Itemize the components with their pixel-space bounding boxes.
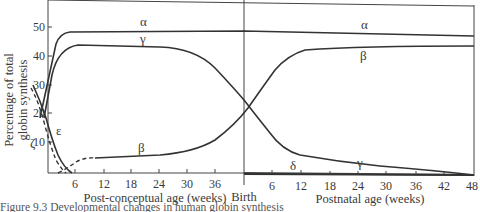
pre-tick-24: 24 [153, 177, 165, 191]
series-gamma [44, 45, 474, 175]
pre-tick-12: 12 [98, 177, 110, 191]
x-axis-postnatal-labels: 6 12 18 24 30 36 42 48 [269, 179, 478, 193]
label-gamma-right: γ [356, 155, 363, 170]
y-axis-title-line2: globin synthesis [16, 59, 30, 140]
globin-synthesis-chart: 50 40 30 20 10 Percentage of total globi… [0, 0, 480, 212]
series-delta [244, 174, 474, 175]
label-zeta: ζ [30, 135, 36, 150]
y-tick-50: 50 [33, 20, 45, 34]
label-epsilon: ε [56, 123, 62, 138]
pre-tick-36: 36 [209, 177, 221, 191]
pre-tick-18: 18 [125, 177, 137, 191]
x-axis-prenatal-ticks [75, 169, 215, 173]
y-tick-labels: 50 40 30 20 10 [33, 20, 45, 149]
figure-caption: Figure 9.3 Developmental changes in huma… [0, 201, 284, 212]
label-alpha-left: α [140, 14, 147, 29]
post-tick-12: 12 [295, 179, 307, 193]
series-beta [95, 46, 474, 158]
post-tick-30: 30 [380, 179, 392, 193]
label-gamma-left: γ [139, 31, 146, 46]
label-beta-left: β [138, 140, 145, 155]
post-tick-6: 6 [269, 179, 275, 193]
post-tick-36: 36 [410, 179, 422, 193]
pre-tick-6: 6 [72, 177, 78, 191]
pre-tick-30: 30 [181, 177, 193, 191]
x-axis-prenatal-labels: 6 12 18 24 30 36 [72, 177, 221, 191]
y-axis-title: Percentage of total globin synthesis [2, 53, 30, 147]
x-axis-title-postnatal: Postnatal age (weeks) [316, 192, 425, 206]
label-beta-right: β [360, 48, 367, 63]
label-delta: δ [290, 158, 296, 173]
post-tick-48: 48 [466, 179, 478, 193]
post-tick-18: 18 [324, 179, 336, 193]
series-alpha [40, 31, 474, 118]
y-axis-title-line1: Percentage of total [2, 53, 16, 147]
post-tick-24: 24 [352, 179, 364, 193]
y-tick-40: 40 [33, 49, 45, 63]
series-epsilon [33, 85, 72, 173]
post-tick-42: 42 [438, 179, 450, 193]
label-alpha-right: α [361, 17, 368, 32]
